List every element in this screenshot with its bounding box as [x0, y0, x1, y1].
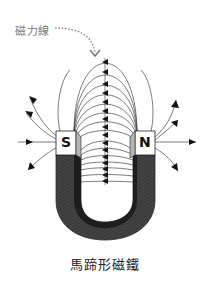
field-line-label: 磁力線 — [15, 22, 50, 38]
horseshoe-magnet-diagram — [0, 0, 209, 282]
diagram-title: 馬蹄形磁鐵 — [0, 254, 209, 273]
s-pole-label: S — [61, 134, 71, 150]
outer-arrowheads — [25, 96, 196, 171]
n-pole-label: N — [139, 134, 151, 150]
magnet-inner-shadow — [74, 155, 137, 228]
label-pointer-dotted — [55, 28, 95, 52]
